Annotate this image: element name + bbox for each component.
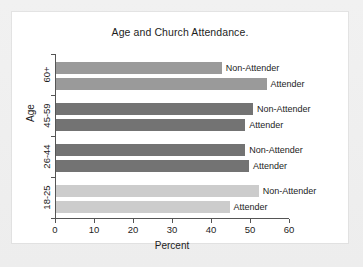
x-tick-label: 30 [167, 224, 178, 235]
bar-label: Attender [271, 78, 305, 90]
bar-label: Non-Attender [249, 144, 303, 156]
bar-label: Non-Attender [226, 62, 280, 74]
x-tick [250, 219, 251, 223]
bar-label: Non-Attender [263, 185, 317, 197]
y-axis-title: Age [25, 104, 36, 122]
bar [56, 103, 253, 115]
bar [56, 119, 245, 131]
x-tick-label: 0 [52, 224, 57, 235]
x-axis-title: Percent [55, 240, 289, 251]
y-category-label: 18-25 [41, 179, 52, 216]
x-tick-label: 40 [206, 224, 217, 235]
bar-label: Attender [249, 119, 283, 131]
x-tick [172, 219, 173, 223]
bar [56, 62, 222, 74]
x-tick [133, 219, 134, 223]
bar-label: Attender [253, 160, 287, 172]
x-tick-label: 60 [284, 224, 295, 235]
y-tick [51, 95, 55, 96]
y-tick [51, 218, 55, 219]
x-tick-label: 10 [89, 224, 100, 235]
x-tick-label: 50 [245, 224, 256, 235]
x-tick [55, 219, 56, 223]
x-tick-label: 20 [128, 224, 139, 235]
y-category-label: 45-59 [41, 97, 52, 134]
y-category-label: 60+ [41, 56, 52, 93]
bar-label: Non-Attender [257, 103, 311, 115]
bar [56, 144, 245, 156]
y-tick [51, 136, 55, 137]
bar [56, 160, 249, 172]
bar-label: Attender [234, 201, 268, 213]
y-tick [51, 54, 55, 55]
plot-area: 0102030405060 Non-AttenderAttender60+Non… [55, 54, 289, 218]
y-category-label: 26-44 [41, 138, 52, 175]
chart-panel: Age and Church Attendance. Age 010203040… [12, 12, 348, 243]
bar [56, 185, 259, 197]
page-background: Age and Church Attendance. Age 010203040… [0, 0, 363, 267]
chart-title: Age and Church Attendance. [12, 26, 348, 38]
x-tick [289, 219, 290, 223]
x-tick [94, 219, 95, 223]
bar [56, 201, 230, 213]
y-tick [51, 177, 55, 178]
bar [56, 78, 267, 90]
x-tick [211, 219, 212, 223]
